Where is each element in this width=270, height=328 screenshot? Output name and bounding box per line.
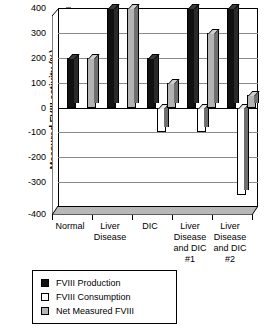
legend-swatch-net [41,307,49,315]
legend-item[interactable]: FVIII Consumption [41,290,168,304]
bar-prod[interactable] [147,58,156,108]
y-axis-tick-labels: 4003002001000-100-200-300-400 [18,8,46,218]
x-tick-mark [252,215,253,220]
bar-net[interactable] [127,8,136,108]
y-tick-label: -400 [18,210,46,219]
bar-net[interactable] [207,33,216,108]
x-tick-mark [92,215,93,220]
y-tick-label: 300 [18,28,46,37]
legend-swatch-prod [41,279,49,287]
y-tick-label: 100 [18,78,46,87]
x-tick-mark [172,215,173,220]
x-tick-label-line: DIC [130,221,170,232]
x-tick-label: LiverDiseaseand DIC#1 [170,221,210,265]
fviii-activity-bar-chart: Measured FVIII activity (%) 400300200100… [0,0,270,328]
x-tick-label-line: #2 [210,254,250,265]
bar-prod[interactable] [107,8,116,108]
bar-side-face [114,5,119,103]
x-tick-mark [52,215,53,220]
x-tick-label-line: and DIC [210,243,250,254]
bar-cons[interactable] [197,108,206,133]
y-tick-label: 400 [18,4,46,13]
bar-prod[interactable] [67,58,76,108]
bar-cons[interactable] [237,108,246,195]
y-tick-label: -300 [18,178,46,187]
x-tick-label: LiverDisease [90,221,130,243]
bar-series-container [58,8,258,207]
x-tick-label-line: Disease [210,232,250,243]
bar-side-face [154,55,159,103]
x-tick-label-line: Liver [210,221,250,232]
chart-legend: FVIII ProductionFVIII ConsumptionNet Mea… [32,270,177,324]
bar-side-face [194,5,199,103]
plot-area [52,8,258,215]
bar-prod[interactable] [227,8,236,108]
legend-label: FVIII Consumption [56,292,131,302]
bar-group [218,8,258,207]
bar-cons[interactable] [157,108,166,133]
bar-group [98,8,138,207]
bar-group [138,8,178,207]
x-tick-label-line: Liver [90,221,130,232]
bar-group [178,8,218,207]
y-tick-label: -200 [18,153,46,162]
legend-label: Net Measured FVIII [56,306,134,316]
legend-label: FVIII Production [56,278,121,288]
legend-item[interactable]: FVIII Production [41,276,168,290]
y-tick-label: 200 [18,53,46,62]
bar-net[interactable] [87,58,96,108]
bar-net[interactable] [167,83,176,108]
legend-item[interactable]: Net Measured FVIII [41,304,168,318]
x-tick-label: LiverDiseaseand DIC#2 [210,221,250,265]
bar-side-face [74,55,79,103]
x-tick-mark [132,215,133,220]
bar-group [58,8,98,207]
x-tick-label-line: Normal [50,221,90,232]
y-tick-label: 0 [18,103,46,112]
bar-prod[interactable] [187,8,196,108]
x-tick-mark [212,215,213,220]
x-tick-label: Normal [50,221,90,232]
legend-swatch-cons [41,293,49,301]
x-tick-label-line: #1 [170,254,210,265]
x-axis-tick-labels: NormalLiverDiseaseDICLiverDiseaseand DIC… [50,221,265,266]
x-tick-label-line: Liver [170,221,210,232]
y-tick-label: -100 [18,128,46,137]
bar-net[interactable] [247,95,256,107]
bar-side-face [244,105,249,190]
bar-side-face [234,5,239,103]
x-tick-label-line: and DIC [170,243,210,254]
x-tick-label-line: Disease [90,232,130,243]
plot-floor-3d [52,206,258,215]
x-tick-label-line: Disease [170,232,210,243]
x-tick-label: DIC [130,221,170,232]
